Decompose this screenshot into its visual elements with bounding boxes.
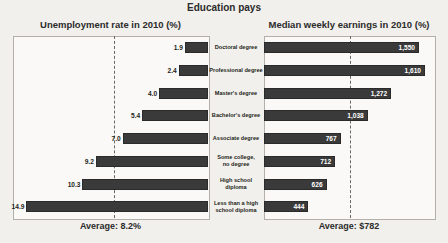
unemployment-value: 4.0	[148, 88, 157, 99]
unemployment-bar	[123, 133, 208, 144]
category-label: High schooldiploma	[209, 173, 263, 196]
chart-row: 4.0Master's degree1,272	[0, 82, 448, 105]
chart-row: 9.2Some college,no degree712	[0, 150, 448, 173]
right-panel-header: Median weekly earnings in 2010 (%)	[264, 19, 434, 30]
unemployment-bar	[26, 201, 208, 212]
earnings-value: 712	[264, 156, 331, 167]
right-average-label: Average: $782	[264, 221, 434, 231]
unemployment-value: 14.9	[12, 201, 25, 212]
earnings-value: 1,038	[264, 110, 364, 121]
category-label: Bachelor's degree	[209, 104, 263, 127]
category-label: Associate degree	[209, 127, 263, 150]
chart-row: 1.9Doctoral degree1,550	[0, 36, 448, 59]
chart-row: 7.0Associate degree767	[0, 127, 448, 150]
chart-row: 14.9Less than a highschool diploma444	[0, 195, 448, 218]
unemployment-value: 2.4	[168, 65, 177, 76]
unemployment-bar	[96, 156, 208, 167]
category-label: Professional degree	[209, 59, 263, 82]
category-label: Master's degree	[209, 82, 263, 105]
left-average-label: Average: 8.2%	[13, 221, 208, 231]
unemployment-bar	[82, 179, 208, 190]
earnings-value: 1,610	[264, 65, 421, 76]
earnings-value: 1,272	[264, 88, 387, 99]
unemployment-bar	[142, 110, 208, 121]
category-label: Doctoral degree	[209, 36, 263, 59]
unemployment-bar	[179, 65, 208, 76]
chart-row: 5.4Bachelor's degree1,038	[0, 104, 448, 127]
earnings-value: 626	[264, 179, 323, 190]
unemployment-bar	[159, 88, 208, 99]
unemployment-bar	[185, 42, 208, 53]
left-panel-header: Unemployment rate in 2010 (%)	[13, 19, 208, 30]
chart-row: 2.4Professional degree1,610	[0, 59, 448, 82]
unemployment-value: 5.4	[131, 110, 140, 121]
earnings-value: 1,550	[264, 42, 415, 53]
unemployment-value: 1.9	[174, 42, 183, 53]
category-label: Some college,no degree	[209, 150, 263, 173]
earnings-value: 767	[264, 133, 337, 144]
earnings-value: 444	[264, 201, 304, 212]
chart-row: 10.3High schooldiploma626	[0, 173, 448, 196]
category-label: Less than a highschool diploma	[209, 195, 263, 218]
unemployment-value: 10.3	[68, 179, 81, 190]
chart-title: Education pays	[0, 2, 448, 13]
unemployment-value: 9.2	[85, 156, 94, 167]
unemployment-value: 7.0	[112, 133, 121, 144]
